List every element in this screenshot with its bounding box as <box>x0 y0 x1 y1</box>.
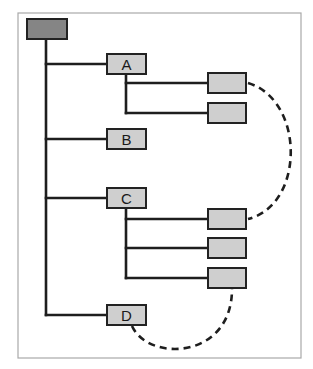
node-c-label: C <box>121 190 132 207</box>
node-b-label: B <box>121 131 131 148</box>
node-d[interactable]: D <box>107 305 146 325</box>
root-node[interactable] <box>27 19 67 39</box>
leaf-a2[interactable] <box>208 103 246 123</box>
node-a[interactable]: A <box>107 54 146 74</box>
leaf-c2[interactable] <box>208 238 246 258</box>
node-d-label: D <box>121 307 132 324</box>
tree-diagram: A B C D <box>0 0 313 369</box>
leaf-c3[interactable] <box>208 268 246 288</box>
leaf-a1[interactable] <box>208 73 246 93</box>
node-c[interactable]: C <box>107 188 146 208</box>
node-b[interactable]: B <box>107 129 146 149</box>
node-a-label: A <box>121 56 131 73</box>
leaf-c1[interactable] <box>208 209 246 229</box>
